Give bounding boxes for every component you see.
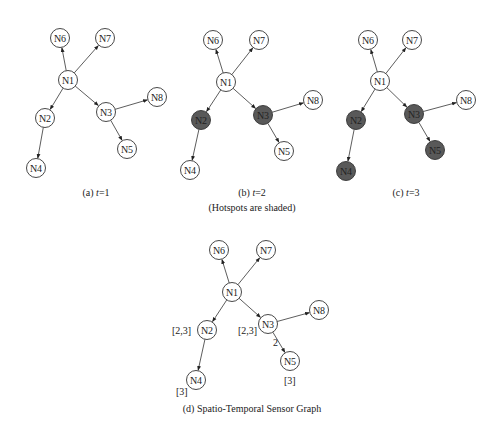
node-n2: N2 bbox=[198, 321, 217, 340]
caption-panel-a: (a) t=1 bbox=[82, 187, 109, 199]
panel-c: N6N7N1N2N3N8N5N4(c) t=3 bbox=[337, 31, 476, 200]
panels-group: N6N7N1N2N3N8N5N4(a) t=1N6N7N1N2N3N8N5N4(… bbox=[27, 29, 476, 416]
node-label: N4 bbox=[190, 375, 202, 386]
edge-n3-n5 bbox=[111, 120, 122, 140]
node-n3-hotspot: N3 bbox=[405, 105, 424, 124]
node-label: N8 bbox=[307, 95, 319, 106]
node-label: N7 bbox=[406, 35, 418, 46]
node-label: N8 bbox=[313, 305, 325, 316]
node-label: N2 bbox=[350, 115, 362, 126]
node-n4: N4 bbox=[27, 159, 46, 178]
node-n7: N7 bbox=[257, 241, 276, 260]
node-n2: N2 bbox=[36, 109, 55, 128]
node-n5: N5 bbox=[281, 352, 300, 371]
edge-n3-n8 bbox=[423, 103, 456, 112]
node-n8: N8 bbox=[457, 91, 476, 110]
caption-panel-d: (d) Spatio-Temporal Sensor Graph bbox=[183, 403, 321, 415]
time-annotation: [3] bbox=[176, 386, 188, 397]
node-n3: N3 bbox=[259, 315, 278, 334]
node-label: N8 bbox=[151, 92, 163, 103]
node-n5: N5 bbox=[118, 140, 137, 159]
edge-n1-n6 bbox=[62, 48, 66, 71]
node-label: N7 bbox=[260, 245, 272, 256]
node-n7: N7 bbox=[403, 31, 422, 50]
edge-n1-n7 bbox=[238, 258, 260, 285]
edge-n2-n4 bbox=[192, 129, 199, 160]
edge-n2-n4 bbox=[348, 129, 354, 161]
time-annotation: [2,3] bbox=[172, 325, 191, 336]
node-label: N3 bbox=[100, 107, 112, 118]
node-n2-hotspot: N2 bbox=[192, 111, 211, 130]
edge-n1-n7 bbox=[74, 46, 98, 73]
node-n6: N6 bbox=[204, 31, 223, 50]
node-n1: N1 bbox=[59, 71, 78, 90]
time-annotation: [2,3] bbox=[238, 325, 257, 336]
panel-a: N6N7N1N2N3N8N5N4(a) t=1 bbox=[27, 29, 167, 200]
node-label: N1 bbox=[220, 77, 232, 88]
node-label: N6 bbox=[362, 35, 374, 46]
node-n7: N7 bbox=[96, 29, 115, 48]
node-n8: N8 bbox=[310, 301, 329, 320]
node-n1: N1 bbox=[371, 72, 390, 91]
node-n6: N6 bbox=[210, 241, 229, 260]
node-n2-hotspot: N2 bbox=[347, 111, 366, 130]
edge-n1-n3 bbox=[233, 88, 255, 108]
edge-n1-n3 bbox=[75, 86, 98, 105]
spatio-temporal-sensor-graph-figure: N6N7N1N2N3N8N5N4(a) t=1N6N7N1N2N3N8N5N4(… bbox=[0, 0, 499, 425]
edge-n1-n6 bbox=[371, 50, 378, 72]
edge-n1-n2 bbox=[50, 88, 63, 109]
node-label: N2 bbox=[39, 113, 51, 124]
node-label: N4 bbox=[184, 165, 196, 176]
node-n3-hotspot: N3 bbox=[254, 106, 273, 125]
edge-n2-n4 bbox=[198, 339, 205, 370]
edge-n3-n8 bbox=[277, 313, 309, 322]
edge-n1-n3 bbox=[239, 298, 260, 317]
node-n6: N6 bbox=[51, 29, 70, 48]
node-label: N6 bbox=[54, 33, 66, 44]
node-n5: N5 bbox=[275, 142, 294, 161]
node-label: N1 bbox=[374, 76, 386, 87]
node-label: N5 bbox=[284, 356, 296, 367]
node-label: N4 bbox=[340, 166, 352, 177]
node-label: N1 bbox=[226, 287, 238, 298]
node-label: N6 bbox=[207, 35, 219, 46]
node-label: N7 bbox=[253, 35, 265, 46]
node-n7: N7 bbox=[250, 31, 269, 50]
edge-n1-n6 bbox=[222, 260, 229, 283]
node-n1: N1 bbox=[217, 73, 236, 92]
edge-n1-n2 bbox=[206, 90, 220, 112]
node-n4-hotspot: N4 bbox=[337, 162, 356, 181]
node-n1: N1 bbox=[223, 283, 242, 302]
node-label: N5 bbox=[429, 145, 441, 156]
node-label: N2 bbox=[195, 115, 207, 126]
node-n8: N8 bbox=[304, 91, 323, 110]
node-n5-hotspot: N5 bbox=[426, 141, 445, 160]
node-label: N5 bbox=[121, 144, 133, 155]
edge-n1-n3 bbox=[387, 88, 407, 107]
caption-panel-c: (c) t=3 bbox=[392, 187, 419, 199]
edge-n3-n5 bbox=[268, 123, 279, 142]
panel-b: N6N7N1N2N3N8N5N4(b) t=2 bbox=[181, 31, 323, 200]
node-label: N1 bbox=[62, 75, 74, 86]
node-n4: N4 bbox=[187, 371, 206, 390]
caption-panel-b: (b) t=2 bbox=[238, 187, 266, 199]
edge-n3-n8 bbox=[272, 103, 303, 112]
node-label: N2 bbox=[201, 325, 213, 336]
node-label: N6 bbox=[213, 245, 225, 256]
edge-n1-n6 bbox=[216, 50, 223, 73]
edge-n1-n7 bbox=[232, 48, 253, 75]
edge-n1-n7 bbox=[386, 48, 406, 74]
node-label: N3 bbox=[257, 110, 269, 121]
node-label: N5 bbox=[278, 146, 290, 157]
edge-n1-n2 bbox=[361, 89, 375, 111]
time-annotation: 2 bbox=[273, 337, 278, 348]
node-n6: N6 bbox=[359, 31, 378, 50]
node-label: N4 bbox=[30, 163, 42, 174]
node-label: N8 bbox=[460, 95, 472, 106]
node-n8: N8 bbox=[148, 88, 167, 107]
edge-n1-n2 bbox=[212, 300, 226, 322]
node-label: N3 bbox=[262, 319, 274, 330]
node-n3: N3 bbox=[97, 103, 116, 122]
time-annotation: [3] bbox=[284, 375, 296, 386]
node-label: N3 bbox=[408, 109, 420, 120]
